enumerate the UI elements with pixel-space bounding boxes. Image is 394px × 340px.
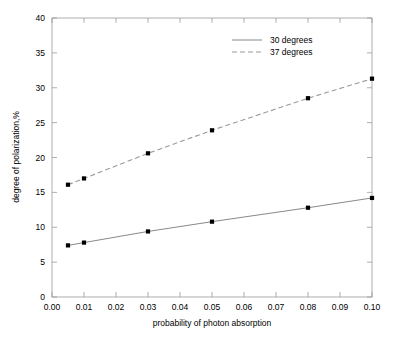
series-markers xyxy=(66,77,374,248)
y-tick-label-2: 10 xyxy=(36,222,46,232)
x-axis-ticks xyxy=(52,18,372,297)
x-tick-label-2: 0.02 xyxy=(108,302,125,312)
x-axis-tick-labels: 0.000.010.020.030.040.050.060.070.080.09… xyxy=(44,302,381,312)
chart-plot-area: 0.000.010.020.030.040.050.060.070.080.09… xyxy=(0,0,394,340)
x-tick-label-7: 0.07 xyxy=(268,302,285,312)
x-tick-label-5: 0.05 xyxy=(204,302,221,312)
x-tick-label-6: 0.06 xyxy=(236,302,253,312)
x-tick-label-10: 0.10 xyxy=(364,302,381,312)
y-tick-label-1: 5 xyxy=(40,257,45,267)
data-point-30-degrees-3 xyxy=(210,220,214,224)
legend-label-30-degrees: 30 degrees xyxy=(270,35,313,45)
x-tick-label-3: 0.03 xyxy=(140,302,157,312)
data-point-30-degrees-5 xyxy=(370,196,374,200)
y-axis-title: degree of polarization,% xyxy=(11,111,21,203)
x-axis-title: probability of photon absorption xyxy=(153,318,272,328)
y-tick-label-0: 0 xyxy=(40,292,45,302)
data-point-30-degrees-2 xyxy=(146,229,150,233)
y-tick-label-5: 25 xyxy=(36,118,46,128)
y-tick-label-6: 30 xyxy=(36,83,46,93)
series-lines xyxy=(68,79,372,246)
series-line-37-degrees xyxy=(68,79,372,185)
y-tick-label-4: 20 xyxy=(36,153,46,163)
y-axis-ticks xyxy=(52,18,372,297)
series-line-30-degrees xyxy=(68,198,372,245)
data-point-30-degrees-4 xyxy=(306,206,310,210)
chart-legend: 30 degrees 37 degrees xyxy=(232,35,313,57)
legend-label-37-degrees: 37 degrees xyxy=(270,47,313,57)
x-tick-label-9: 0.09 xyxy=(332,302,349,312)
y-tick-label-8: 40 xyxy=(36,13,46,23)
data-point-30-degrees-0 xyxy=(66,243,70,247)
y-tick-label-7: 35 xyxy=(36,48,46,58)
data-point-37-degrees-5 xyxy=(370,77,374,81)
x-tick-label-4: 0.04 xyxy=(172,302,189,312)
data-point-30-degrees-1 xyxy=(82,241,86,245)
x-tick-label-1: 0.01 xyxy=(76,302,93,312)
data-point-37-degrees-3 xyxy=(210,128,214,132)
x-tick-label-0: 0.00 xyxy=(44,302,61,312)
data-point-37-degrees-4 xyxy=(306,96,310,100)
y-tick-label-3: 15 xyxy=(36,187,46,197)
plot-frame xyxy=(52,18,372,297)
x-tick-label-8: 0.08 xyxy=(300,302,317,312)
data-point-37-degrees-1 xyxy=(82,176,86,180)
chart-figure: 0.000.010.020.030.040.050.060.070.080.09… xyxy=(0,0,394,340)
data-point-37-degrees-0 xyxy=(66,183,70,187)
y-axis-tick-labels: 0510152025303540 xyxy=(36,13,46,302)
data-point-37-degrees-2 xyxy=(146,151,150,155)
